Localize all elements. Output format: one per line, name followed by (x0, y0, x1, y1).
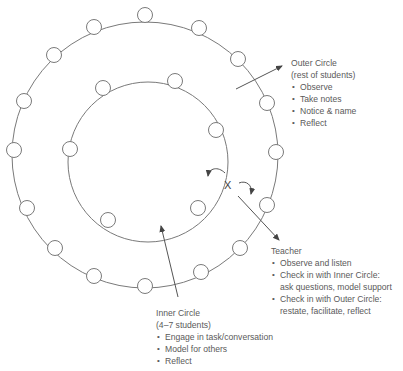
teacher-title: Teacher (271, 245, 392, 257)
teacher-label: Teacher Observe and listen Check in with… (271, 245, 392, 317)
outer-circle-subtitle: (rest of students) (291, 69, 356, 81)
outer-student-seat (138, 279, 153, 294)
outer-circle-title: Outer Circle (291, 57, 356, 69)
teacher-role-item-continued: ask questions, model support (271, 281, 392, 293)
outer-circle-label: Outer Circle (rest of students) Observe … (291, 57, 356, 129)
outer-student-seat (87, 20, 102, 35)
teacher-role-item: Check in with Inner Circle: (271, 269, 392, 281)
outer-role-item: Take notes (291, 93, 356, 105)
outer-student-seat (231, 52, 246, 67)
inner-circle-ring (68, 82, 228, 242)
rotate-left-arrow-icon (208, 169, 225, 176)
inner-student-seat (63, 142, 78, 157)
outer-role-item: Notice & name (291, 105, 356, 117)
teacher-role-item: Check in with Outer Circle: (271, 293, 392, 305)
outer-student-seat (138, 8, 153, 23)
inner-student-seat (101, 213, 116, 228)
outer-role-item: Reflect (291, 117, 356, 129)
inner-role-item: Engage in task/conversation (156, 331, 273, 343)
outer-circle-students (7, 8, 284, 294)
outer-student-seat (48, 241, 63, 256)
outer-student-seat (260, 198, 275, 213)
outer-student-seat (260, 96, 275, 111)
inner-circle-title: Inner Circle (156, 307, 273, 319)
teacher-role-item-continued: restate, facilitate, reflect (271, 305, 392, 317)
outer-student-seat (233, 241, 248, 256)
teacher-roles: Observe and listen Check in with Inner C… (271, 257, 392, 317)
inner-student-seat (191, 201, 206, 216)
outer-student-seat (269, 145, 284, 160)
inner-circle-subtitle: (4–7 students) (156, 319, 273, 331)
outer-role-item: Observe (291, 81, 356, 93)
inner-student-seat (96, 81, 111, 96)
outer-student-seat (17, 94, 32, 109)
outer-student-seat (194, 265, 209, 280)
inner-student-seat (209, 123, 224, 138)
inner-role-item: Model for others (156, 343, 273, 355)
teacher-role-item: Observe and listen (271, 257, 392, 269)
inner-circle-roles: Engage in task/conversation Model for ot… (156, 331, 273, 367)
rotate-right-arrow-icon (239, 182, 251, 194)
inner-circle-label: Inner Circle (4–7 students) Engage in ta… (156, 307, 273, 367)
outer-student-seat (7, 143, 22, 158)
outer-student-seat (20, 201, 35, 216)
teacher-marker: X (224, 179, 232, 191)
outer-circle-roles: Observe Take notes Notice & name Reflect (291, 81, 356, 129)
inner-circle-students (63, 74, 224, 228)
inner-role-item: Reflect (156, 355, 273, 367)
outer-student-seat (87, 269, 102, 284)
outer-student-seat (192, 21, 207, 36)
inner-student-seat (168, 74, 183, 89)
outer-student-seat (47, 48, 62, 63)
